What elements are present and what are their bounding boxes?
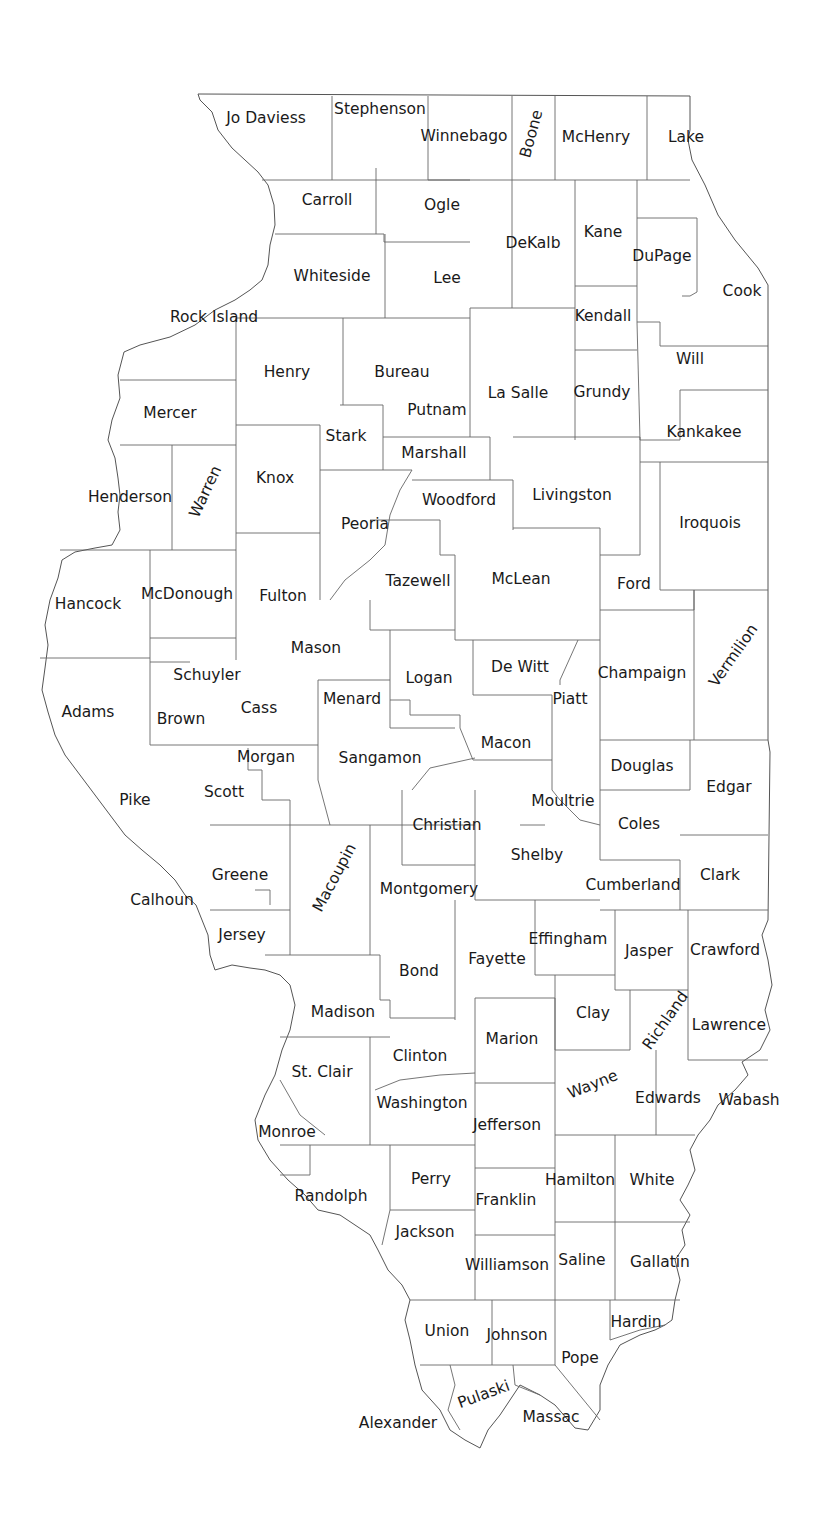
county-label-carroll[interactable]: Carroll: [302, 193, 353, 209]
county-label-white[interactable]: White: [629, 1173, 674, 1189]
county-label-hardin[interactable]: Hardin: [610, 1315, 661, 1331]
county-label-kane[interactable]: Kane: [584, 225, 623, 241]
county-label-kankakee[interactable]: Kankakee: [667, 425, 742, 441]
county-label-mcdonough[interactable]: McDonough: [141, 587, 233, 603]
county-label-pike[interactable]: Pike: [119, 793, 150, 809]
county-label-fayette[interactable]: Fayette: [468, 952, 525, 968]
county-label-effingham[interactable]: Effingham: [529, 932, 608, 948]
county-label-mchenry[interactable]: McHenry: [562, 130, 630, 146]
county-label-scott[interactable]: Scott: [204, 785, 244, 801]
county-label-menard[interactable]: Menard: [323, 692, 381, 708]
county-label-clinton[interactable]: Clinton: [393, 1049, 448, 1065]
county-label-bond[interactable]: Bond: [399, 964, 439, 980]
county-label-monroe[interactable]: Monroe: [258, 1125, 316, 1141]
county-label-brown[interactable]: Brown: [157, 712, 206, 728]
county-label-perry[interactable]: Perry: [411, 1172, 451, 1188]
county-label-rock-island[interactable]: Rock Island: [170, 310, 258, 326]
county-label-jackson[interactable]: Jackson: [396, 1225, 455, 1241]
county-label-jersey[interactable]: Jersey: [218, 928, 265, 944]
county-label-henry[interactable]: Henry: [264, 365, 311, 381]
county-label-clark[interactable]: Clark: [700, 868, 740, 884]
county-label-pope[interactable]: Pope: [561, 1351, 599, 1367]
county-label-hancock[interactable]: Hancock: [55, 597, 121, 613]
county-label-coles[interactable]: Coles: [618, 817, 660, 833]
county-label-dekalb[interactable]: DeKalb: [505, 236, 560, 252]
county-label-st-clair[interactable]: St. Clair: [291, 1065, 352, 1081]
county-label-winnebago[interactable]: Winnebago: [420, 129, 507, 145]
county-label-jo-daviess[interactable]: Jo Daviess: [226, 111, 306, 127]
county-label-gallatin[interactable]: Gallatin: [630, 1255, 690, 1271]
county-label-douglas[interactable]: Douglas: [611, 759, 674, 775]
county-label-peoria[interactable]: Peoria: [341, 517, 389, 533]
county-label-edgar[interactable]: Edgar: [706, 780, 751, 796]
county-label-de-witt[interactable]: De Witt: [491, 660, 549, 676]
county-label-union[interactable]: Union: [425, 1324, 470, 1340]
county-label-marshall[interactable]: Marshall: [401, 446, 466, 462]
county-label-henderson[interactable]: Henderson: [88, 490, 172, 506]
county-label-ogle[interactable]: Ogle: [424, 198, 460, 214]
county-label-greene[interactable]: Greene: [212, 868, 268, 884]
county-label-montgomery[interactable]: Montgomery: [380, 882, 478, 898]
county-label-madison[interactable]: Madison: [311, 1005, 375, 1021]
county-label-dupage[interactable]: DuPage: [632, 249, 691, 265]
county-label-livingston[interactable]: Livingston: [532, 488, 612, 504]
county-label-fulton[interactable]: Fulton: [259, 589, 307, 605]
county-label-morgan[interactable]: Morgan: [237, 750, 295, 766]
county-label-ford[interactable]: Ford: [617, 577, 651, 593]
county-label-lake[interactable]: Lake: [668, 130, 704, 146]
county-label-champaign[interactable]: Champaign: [598, 666, 687, 682]
county-label-alexander[interactable]: Alexander: [359, 1416, 437, 1432]
county-label-whiteside[interactable]: Whiteside: [294, 269, 371, 285]
county-label-putnam[interactable]: Putnam: [407, 403, 466, 419]
county-label-williamson[interactable]: Williamson: [465, 1258, 549, 1274]
county-label-mercer[interactable]: Mercer: [143, 406, 196, 422]
county-label-wabash[interactable]: Wabash: [718, 1093, 779, 1109]
county-label-shelby[interactable]: Shelby: [511, 848, 564, 864]
county-label-logan[interactable]: Logan: [405, 671, 452, 687]
county-label-christian[interactable]: Christian: [412, 818, 481, 834]
county-label-lawrence[interactable]: Lawrence: [692, 1018, 766, 1034]
county-label-woodford[interactable]: Woodford: [422, 493, 496, 509]
county-label-crawford[interactable]: Crawford: [690, 943, 760, 959]
county-label-randolph[interactable]: Randolph: [294, 1189, 367, 1205]
county-label-will[interactable]: Will: [676, 352, 704, 368]
county-label-iroquois[interactable]: Iroquois: [679, 516, 741, 532]
county-label-macon[interactable]: Macon: [481, 736, 532, 752]
county-label-cass[interactable]: Cass: [241, 701, 277, 717]
county-label-saline[interactable]: Saline: [558, 1253, 605, 1269]
county-label-washington[interactable]: Washington: [376, 1096, 467, 1112]
county-label-sangamon[interactable]: Sangamon: [339, 751, 422, 767]
county-label-stephenson[interactable]: Stephenson: [334, 102, 426, 118]
county-label-moultrie[interactable]: Moultrie: [531, 794, 594, 810]
county-label-grundy[interactable]: Grundy: [573, 385, 630, 401]
county-label-calhoun[interactable]: Calhoun: [130, 893, 194, 909]
county-label-jefferson[interactable]: Jefferson: [473, 1118, 541, 1134]
county-label-bureau[interactable]: Bureau: [374, 365, 429, 381]
county-label-cook[interactable]: Cook: [723, 284, 762, 300]
county-label-lee[interactable]: Lee: [433, 271, 460, 287]
county-label-jasper[interactable]: Jasper: [625, 944, 673, 960]
county-label-cumberland[interactable]: Cumberland: [586, 878, 681, 894]
county-label-la-salle[interactable]: La Salle: [488, 386, 549, 402]
county-label-schuyler[interactable]: Schuyler: [173, 668, 240, 684]
county-label-hamilton[interactable]: Hamilton: [545, 1173, 615, 1189]
county-label-piatt[interactable]: Piatt: [553, 692, 588, 708]
county-label-kendall[interactable]: Kendall: [575, 309, 632, 325]
county-label-marion[interactable]: Marion: [486, 1032, 539, 1048]
county-label-massac[interactable]: Massac: [522, 1410, 579, 1426]
county-label-johnson[interactable]: Johnson: [486, 1328, 547, 1344]
county-label-adams[interactable]: Adams: [62, 705, 115, 721]
county-label-clay[interactable]: Clay: [576, 1006, 610, 1022]
county-label-tazewell[interactable]: Tazewell: [386, 574, 451, 590]
county-label-mclean[interactable]: McLean: [491, 572, 550, 588]
county-label-franklin[interactable]: Franklin: [476, 1193, 537, 1209]
county-label-mason[interactable]: Mason: [291, 641, 341, 657]
county-label-stark[interactable]: Stark: [326, 429, 367, 445]
county-label-knox[interactable]: Knox: [256, 471, 294, 487]
county-label-edwards[interactable]: Edwards: [635, 1091, 701, 1107]
